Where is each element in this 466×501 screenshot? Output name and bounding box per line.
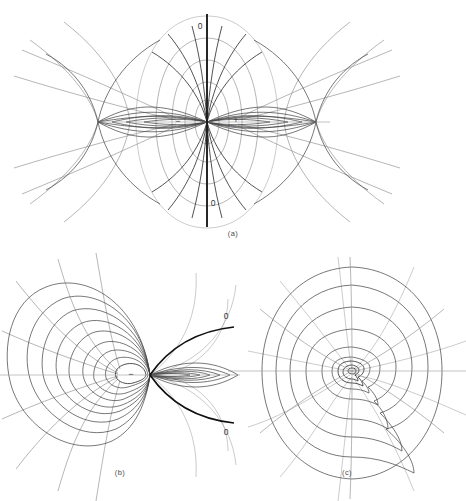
negative-pole-label: − [175,116,180,126]
panel-b-equipotentials [2,253,236,501]
panel-a-plot: 0 0 − + [0,0,466,250]
zero-label-bottom: 0 [211,198,216,208]
separatrix-lower [150,375,234,423]
panel-a: 0 0 − + (a) [0,0,466,250]
panel-c-caption: (c) [228,468,466,477]
panel-b: − 0 0 (b) [0,255,240,501]
panel-c-equipotentials [248,257,466,501]
panel-b-caption: (b) [0,468,240,477]
figure-root: 0 0 − + (a) [0,0,466,501]
positive-pole-label: + [233,115,238,125]
panel-a-caption: (a) [0,229,466,238]
negative-pole-label-b: − [128,369,133,379]
panel-b-contours [7,283,150,446]
panel-c-plot [228,255,466,501]
panel-c: (c) [228,255,466,501]
panel-b-plot: − 0 0 [0,255,240,501]
separatrix-upper [150,327,234,375]
zero-label-top: 0 [198,21,203,31]
